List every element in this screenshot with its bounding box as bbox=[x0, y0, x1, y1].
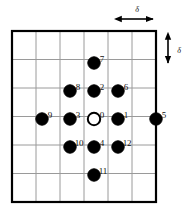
node-label-8: 8 bbox=[76, 83, 80, 92]
stencil-node-1[interactable] bbox=[112, 113, 124, 125]
stencil-node-3[interactable] bbox=[64, 113, 76, 125]
stencil-node-7[interactable] bbox=[88, 57, 100, 69]
stencil-node-8[interactable] bbox=[64, 85, 76, 97]
node-label-12: 12 bbox=[123, 139, 132, 148]
node-label-0: 0 bbox=[100, 111, 104, 120]
stencil-node-2[interactable] bbox=[88, 85, 100, 97]
node-label-10: 10 bbox=[75, 139, 84, 148]
node-label-5: 5 bbox=[162, 111, 166, 120]
stencil-node-6[interactable] bbox=[112, 85, 124, 97]
figure-canvas: 0123456789101112δδ bbox=[0, 0, 189, 213]
node-label-9: 9 bbox=[48, 111, 52, 120]
node-label-6: 6 bbox=[124, 83, 128, 92]
grid-lines bbox=[12, 31, 156, 202]
stencil-node-4[interactable] bbox=[88, 141, 100, 153]
stencil-node-5[interactable] bbox=[150, 113, 162, 125]
node-label-1: 1 bbox=[124, 111, 128, 120]
stencil-diagram bbox=[0, 0, 189, 213]
delta-label-vertical: δ bbox=[177, 46, 181, 55]
stencil-node-0[interactable] bbox=[88, 113, 100, 125]
node-label-7: 7 bbox=[100, 55, 104, 64]
node-label-11: 11 bbox=[99, 167, 107, 176]
stencil-node-9[interactable] bbox=[36, 113, 48, 125]
delta-label-horizontal: δ bbox=[135, 5, 139, 14]
node-label-2: 2 bbox=[100, 83, 104, 92]
node-label-4: 4 bbox=[100, 139, 104, 148]
node-label-3: 3 bbox=[76, 111, 80, 120]
